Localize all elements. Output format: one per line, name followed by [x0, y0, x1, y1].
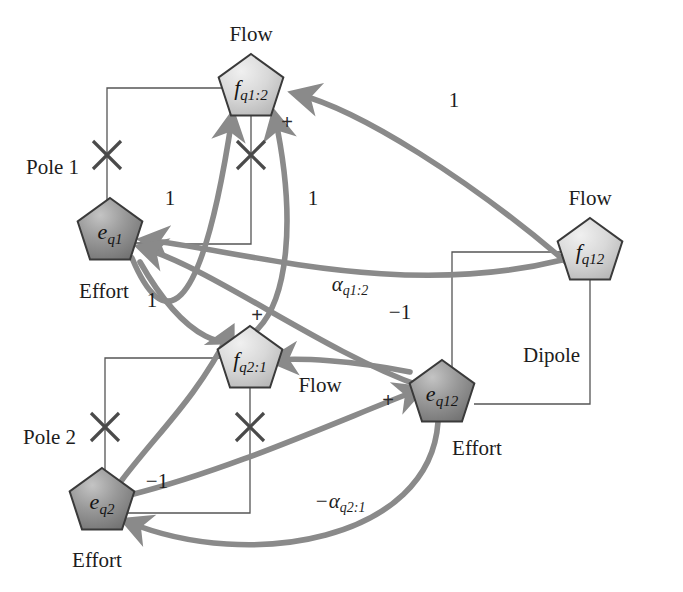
arrow-fq12-to-fq1-2: [297, 94, 566, 262]
node-eq1[interactable]: eq1: [78, 198, 143, 260]
node-shape: [219, 54, 284, 116]
node-caption-fq12: Flow: [568, 188, 611, 209]
node-caption-eq2: Effort: [72, 550, 122, 571]
gain-label-3: 1: [147, 290, 158, 311]
arrow-eq2-to-eq12: [130, 390, 418, 495]
node-caption-eq12: Effort: [452, 438, 502, 459]
arrow-x-to-fq2-1: [275, 359, 410, 372]
gain-label-1: 1: [165, 188, 176, 209]
node-eq12[interactable]: eq12: [410, 360, 475, 422]
node-shape: [410, 360, 475, 422]
node-caption-eq1: Effort: [79, 281, 129, 302]
plus-sign-2: +: [382, 390, 394, 410]
thin-line-pole1-inner: [145, 116, 251, 244]
node-caption-fq12node: Flow: [229, 24, 272, 45]
gain-label-5: −1: [146, 471, 168, 492]
arrow-fq12-to-eq1: [146, 240, 562, 275]
group-label-2: Dipole: [523, 345, 580, 366]
group-label-1: Pole 2: [23, 427, 76, 448]
arrow-eq2-to-fq2-1: [122, 332, 230, 480]
node-caption-fq21: Flow: [298, 375, 341, 396]
gain-label-4: −1: [389, 302, 411, 323]
thin-line-pole2-inner: [140, 388, 250, 513]
alpha-label-1: −αq2:1: [315, 491, 366, 515]
node-fq12node[interactable]: fq1:2: [219, 54, 284, 116]
thin-line-dipole-inner: [474, 280, 590, 404]
alpha-label-0: αq1:2: [332, 274, 369, 298]
node-fq12[interactable]: fq12: [558, 218, 623, 280]
node-shape: [558, 218, 623, 280]
gain-label-0: 1: [449, 90, 460, 111]
plus-sign-1: +: [251, 305, 263, 325]
gain-label-2: 1: [308, 188, 319, 209]
node-shape: [78, 198, 143, 260]
signal-flow-arrows: [122, 94, 566, 545]
group-label-0: Pole 1: [26, 157, 79, 178]
plus-sign-0: +: [281, 112, 293, 132]
